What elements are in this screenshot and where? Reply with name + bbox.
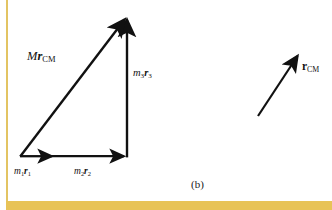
figure-panel: MrCM m3r3 m1r1 m2r2 rCM (b) — [0, 0, 332, 210]
label-m3r3-coefficient-subscript: 3 — [141, 72, 145, 80]
label-Mrcm: MrCM — [27, 50, 56, 63]
label-rcm-subscript: CM — [307, 65, 319, 74]
label-m2r2: m2r2 — [74, 167, 91, 177]
vector-rcm — [258, 56, 298, 116]
label-m1r1-subscript: 1 — [28, 170, 31, 177]
label-m1r1-coefficient: m — [14, 166, 21, 176]
label-m3r3: m3r3 — [133, 68, 152, 79]
label-m2r2-subscript: 2 — [88, 170, 91, 177]
figure-caption: (b) — [191, 178, 204, 190]
label-m3r3-coefficient: m — [133, 67, 141, 78]
label-m1r1: m1r1 — [14, 167, 31, 177]
label-rcm: rCM — [302, 61, 319, 73]
label-m3r3-subscript: 3 — [148, 72, 152, 80]
label-m1r1-coefficient-subscript: 1 — [21, 170, 24, 177]
label-m2r2-coefficient: m — [74, 166, 81, 176]
vector-diagram-canvas — [0, 0, 332, 210]
label-Mrcm-coefficient: M — [27, 49, 37, 63]
label-Mrcm-subscript: CM — [42, 54, 55, 64]
label-m2r2-coefficient-subscript: 2 — [81, 170, 84, 177]
vector-Mrcm — [20, 20, 124, 157]
